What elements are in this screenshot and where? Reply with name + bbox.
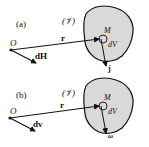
origin-vector bbox=[11, 50, 36, 63]
diagram: (a) (𝒱) O r dH M dV j (b) (𝒱) O r dv M d… bbox=[0, 0, 149, 147]
panel-label: (a) bbox=[16, 19, 26, 29]
panel-a: (a) (𝒱) O r dH M dV j bbox=[9, 6, 133, 73]
point-label: M bbox=[103, 93, 112, 102]
volume-label: (𝒱) bbox=[62, 88, 76, 98]
point-vector-label: ω bbox=[108, 132, 113, 140]
panel-label: (b) bbox=[16, 90, 27, 100]
origin-vector-label: dv bbox=[33, 119, 43, 129]
origin-label: O bbox=[10, 106, 17, 116]
volume-blob bbox=[84, 78, 133, 133]
origin-vector-label: dH bbox=[35, 51, 47, 61]
point-vector-label: j bbox=[107, 64, 111, 73]
element-label: dV bbox=[108, 40, 118, 49]
origin-vector bbox=[10, 118, 35, 131]
position-vector-label: r bbox=[60, 100, 64, 110]
point-label: M bbox=[103, 26, 112, 35]
element-label: dV bbox=[108, 107, 118, 116]
panel-b: (b) (𝒱) O r dv M dV ω bbox=[8, 78, 133, 140]
volume-label: (𝒱) bbox=[62, 16, 76, 26]
origin-label: O bbox=[10, 38, 17, 48]
position-vector-label: r bbox=[61, 33, 65, 43]
